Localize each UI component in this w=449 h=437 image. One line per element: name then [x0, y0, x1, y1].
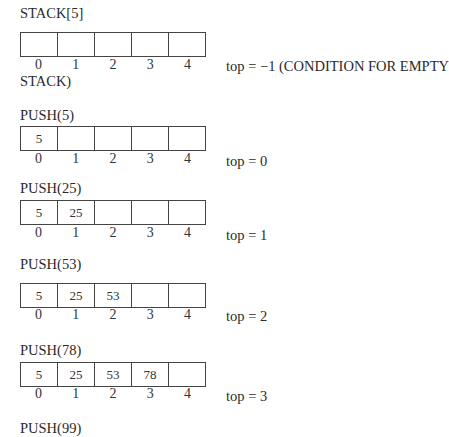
- stack-cell: [95, 201, 132, 224]
- stack-cell: [169, 284, 205, 307]
- stack-cell: 25: [58, 363, 95, 386]
- index-row: 0 1 2 3 4: [20, 386, 206, 402]
- stack-cell: [95, 127, 132, 150]
- operation-label: PUSH(25): [20, 180, 81, 197]
- index-label: 0: [20, 386, 57, 402]
- operation-label: PUSH(53): [20, 256, 81, 273]
- index-label: 3: [132, 386, 169, 402]
- stack-cell: [132, 127, 169, 150]
- stack-cell: [132, 33, 169, 56]
- stack-cell: 78: [132, 363, 169, 386]
- top-pointer-text: top = 1: [226, 227, 267, 244]
- stack-cell: 5: [21, 284, 58, 307]
- index-row: 0 1 2 3 4: [20, 57, 206, 73]
- stack-cell: [132, 201, 169, 224]
- stack-array: 5: [20, 126, 206, 151]
- top-pointer-text: top = 2: [226, 308, 267, 325]
- stack-cell: [169, 201, 205, 224]
- stack-cell: [169, 33, 205, 56]
- operation-label: PUSH(5): [20, 107, 74, 124]
- stack-array: 5 25: [20, 200, 206, 225]
- index-label: 0: [20, 307, 57, 323]
- stack-cell: [58, 127, 95, 150]
- index-label: 1: [57, 386, 94, 402]
- operation-label: PUSH(99): [20, 420, 81, 437]
- stack-title: STACK[5]: [20, 5, 83, 22]
- stack-cell: 53: [95, 284, 132, 307]
- index-label: 2: [94, 151, 131, 167]
- top-pointer-text-continued: STACK): [20, 73, 71, 90]
- stack-cell: 5: [21, 201, 58, 224]
- index-row: 0 1 2 3 4: [20, 151, 206, 167]
- top-pointer-text: top = −1 (CONDITION FOR EMPTY: [226, 58, 449, 75]
- stack-cell: 5: [21, 363, 58, 386]
- index-label: 1: [57, 225, 94, 241]
- index-label: 0: [20, 151, 57, 167]
- index-label: 1: [57, 57, 94, 73]
- index-label: 1: [57, 151, 94, 167]
- index-label: 4: [169, 307, 206, 323]
- index-label: 4: [169, 225, 206, 241]
- stack-array-empty: [20, 32, 206, 57]
- index-label: 3: [132, 225, 169, 241]
- index-label: 2: [94, 225, 131, 241]
- stack-cell: 5: [21, 127, 58, 150]
- operation-label: PUSH(78): [20, 342, 81, 359]
- stack-cell: [21, 33, 58, 56]
- stack-cell: [169, 363, 205, 386]
- stack-cell: [58, 33, 95, 56]
- stack-cell: 53: [95, 363, 132, 386]
- index-label: 4: [169, 386, 206, 402]
- stack-cell: 25: [58, 284, 95, 307]
- index-label: 2: [94, 386, 131, 402]
- stack-cell: [132, 284, 169, 307]
- stack-array: 5 25 53: [20, 283, 206, 308]
- index-label: 2: [94, 57, 131, 73]
- stack-array: 5 25 53 78: [20, 362, 206, 387]
- stack-cell: [169, 127, 205, 150]
- index-label: 1: [57, 307, 94, 323]
- top-pointer-text: top = 0: [226, 153, 267, 170]
- index-label: 4: [169, 57, 206, 73]
- index-label: 3: [132, 307, 169, 323]
- stack-cell: [95, 33, 132, 56]
- index-row: 0 1 2 3 4: [20, 307, 206, 323]
- index-label: 4: [169, 151, 206, 167]
- index-label: 0: [20, 57, 57, 73]
- top-pointer-text: top = 3: [226, 388, 267, 405]
- index-label: 0: [20, 225, 57, 241]
- index-row: 0 1 2 3 4: [20, 225, 206, 241]
- index-label: 3: [132, 151, 169, 167]
- stack-cell: 25: [58, 201, 95, 224]
- index-label: 2: [94, 307, 131, 323]
- index-label: 3: [132, 57, 169, 73]
